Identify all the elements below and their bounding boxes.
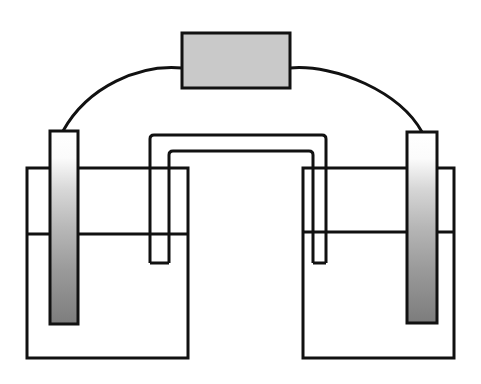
right-electrode xyxy=(407,132,437,323)
right-wire xyxy=(290,68,422,132)
salt-bridge-outer-wall xyxy=(150,135,326,263)
left-wire xyxy=(63,68,182,131)
left-electrode xyxy=(50,131,78,324)
salt-bridge-inner-wall xyxy=(169,151,313,263)
figure-root xyxy=(0,0,481,384)
meter-box xyxy=(182,33,290,88)
electrochemical-cell-diagram xyxy=(0,0,481,384)
